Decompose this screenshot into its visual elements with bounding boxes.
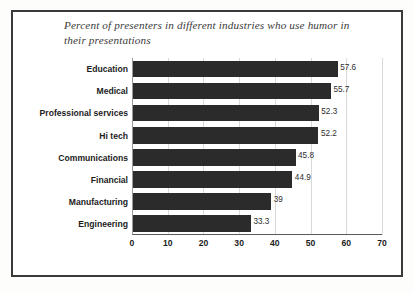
plot-axes [132,58,382,235]
category-label: Engineering [8,219,128,229]
x-tick-label: 40 [270,238,280,248]
x-tick-label: 60 [342,238,352,248]
plot-area: 57.655.752.352.245.844.93933.3 [132,58,382,235]
category-label: Communications [8,153,128,163]
x-tick-label: 10 [163,238,173,248]
x-axis-ticks: 010203040506070 [132,238,382,254]
category-label: Education [8,64,128,74]
chart-page: Percent of presenters in different indus… [0,0,414,293]
category-label: Hi tech [8,131,128,141]
chart-title: Percent of presenters in different indus… [64,18,364,47]
x-tick-label: 20 [199,238,209,248]
category-label: Financial [8,175,128,185]
x-tick-label: 30 [234,238,244,248]
x-tick-label: 0 [130,238,135,248]
gridline [382,58,383,235]
category-label: Professional services [8,108,128,118]
category-label: Manufacturing [8,197,128,207]
category-label: Medical [8,86,128,96]
x-tick-label: 70 [377,238,387,248]
x-tick-label: 50 [306,238,316,248]
category-axis-labels: EducationMedicalProfessional servicesHi … [4,58,128,235]
